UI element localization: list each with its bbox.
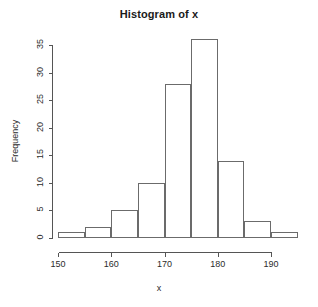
y-axis-tick-label: 35 (35, 35, 45, 53)
y-axis-tick-label: 25 (35, 90, 45, 108)
histogram-bar (165, 84, 191, 237)
bars-group (59, 40, 298, 238)
histogram-bar (112, 211, 138, 238)
x-axis-tick-label: 170 (150, 259, 180, 269)
histogram-bar (218, 161, 244, 237)
y-axis-tick-label: 15 (35, 145, 45, 163)
y-axis-tick-label: 30 (35, 63, 45, 81)
y-axis-tick-label: 5 (35, 200, 45, 218)
x-axis-tick-label: 150 (43, 259, 73, 269)
y-axis-tick-label: 0 (35, 228, 45, 246)
histogram-bar (85, 227, 111, 237)
x-axis-tick-label: 190 (256, 259, 286, 269)
histogram-bar (272, 233, 298, 238)
histogram-plot: Histogram of x Frequency x 0510152025303… (0, 0, 318, 307)
y-axis-tick-label: 10 (35, 173, 45, 191)
x-axis-tick-label: 160 (96, 259, 126, 269)
histogram-bar (245, 222, 271, 238)
y-axis-tick-label: 20 (35, 118, 45, 136)
histogram-bar (59, 233, 85, 238)
x-axis-tick-label: 180 (203, 259, 233, 269)
histogram-bar (192, 40, 218, 238)
histogram-bar (138, 183, 164, 237)
